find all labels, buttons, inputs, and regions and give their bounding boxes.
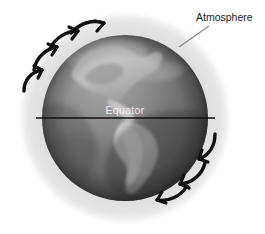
diagram-canvas: Equator Atmosphere <box>0 0 265 234</box>
earth-atmosphere-diagram: Equator Atmosphere <box>0 0 265 234</box>
atmosphere-label: Atmosphere <box>196 11 253 23</box>
equator-label: Equator <box>106 104 145 116</box>
